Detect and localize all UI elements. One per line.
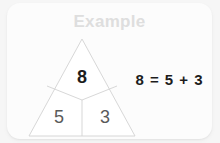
part-number-3: 3 (100, 107, 110, 127)
page-title: Example (7, 11, 212, 32)
equation-text: 8 = 5 + 3 (127, 70, 212, 89)
number-triangle-figure: 8 5 3 (15, 32, 141, 138)
number-triangle-svg: 8 5 3 (15, 32, 141, 138)
example-card: Example 8 5 3 (7, 3, 212, 139)
screen-root: Example 8 5 3 (0, 0, 220, 143)
part-number-5: 5 (54, 107, 64, 127)
whole-number-8: 8 (77, 67, 87, 87)
